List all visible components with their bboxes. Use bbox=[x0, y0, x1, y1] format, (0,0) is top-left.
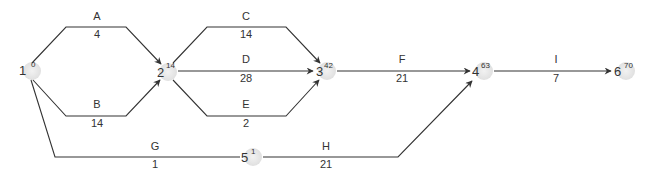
node-1: 1 0 bbox=[19, 60, 41, 80]
edge-E: E 2 bbox=[173, 80, 319, 129]
edge-label: E bbox=[242, 98, 249, 110]
edge-label: I bbox=[554, 53, 557, 65]
edge-D: D 28 bbox=[178, 53, 313, 84]
edge-label: F bbox=[399, 53, 406, 65]
edge-duration: 4 bbox=[94, 28, 100, 40]
edge-duration: 14 bbox=[240, 28, 252, 40]
node-number: 6 bbox=[614, 64, 621, 79]
node-4: 4 63 bbox=[472, 61, 493, 80]
edge-label: D bbox=[242, 53, 250, 65]
edge-G-line bbox=[31, 80, 240, 157]
edge-B: B 14 bbox=[33, 80, 160, 129]
edge-H-line bbox=[263, 81, 472, 157]
node-5: 5 1 bbox=[241, 147, 262, 166]
edge-I: I 7 bbox=[494, 53, 611, 84]
edge-duration: 7 bbox=[553, 72, 559, 84]
network-diagram: 1 0 2 14 3 42 4 63 5 1 6 70 A 4 B 14 bbox=[0, 0, 649, 177]
edge-H: H 21 bbox=[263, 81, 472, 170]
edge-duration: 2 bbox=[243, 117, 249, 129]
node-earliest-time: 1 bbox=[251, 147, 256, 156]
node-number: 4 bbox=[472, 64, 479, 79]
edge-label: A bbox=[93, 10, 101, 22]
node-earliest-time: 63 bbox=[481, 61, 490, 70]
node-6: 6 70 bbox=[614, 61, 635, 80]
node-number: 3 bbox=[316, 64, 323, 79]
node-earliest-time: 70 bbox=[624, 61, 633, 70]
edge-duration: 1 bbox=[152, 158, 158, 170]
edge-duration: 21 bbox=[396, 72, 408, 84]
edge-duration: 21 bbox=[320, 158, 332, 170]
node-number: 2 bbox=[157, 65, 164, 80]
edge-A: A 4 bbox=[32, 10, 161, 64]
node-earliest-time: 42 bbox=[324, 61, 333, 70]
node-2: 2 14 bbox=[157, 61, 177, 81]
edge-F: F 21 bbox=[337, 53, 470, 84]
edge-label: G bbox=[151, 140, 160, 152]
edge-G: G 1 bbox=[31, 80, 240, 170]
node-number: 5 bbox=[241, 150, 248, 165]
edge-label: C bbox=[242, 10, 250, 22]
node-number: 1 bbox=[19, 63, 26, 78]
edge-duration: 28 bbox=[240, 72, 252, 84]
edge-label: H bbox=[322, 140, 330, 152]
node-3: 3 42 bbox=[316, 61, 336, 80]
edge-label: B bbox=[93, 98, 100, 110]
edge-duration: 14 bbox=[91, 117, 103, 129]
